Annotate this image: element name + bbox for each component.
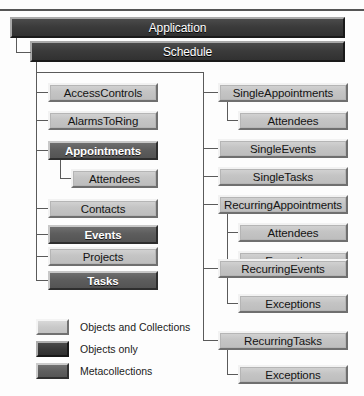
branch-right-singleevents bbox=[203, 148, 219, 149]
node-singleappointments-label: SingleAppointments bbox=[233, 87, 334, 99]
banner-application[interactable]: Application bbox=[10, 17, 345, 38]
trunk-right-vertical bbox=[203, 72, 204, 340]
legend-row-objects-only: Objects only bbox=[36, 338, 190, 360]
node-recurringevents[interactable]: RecurringEvents bbox=[218, 259, 348, 278]
legend-swatch-objects-and-collections bbox=[36, 319, 69, 335]
node-singleevents-label: SingleEvents bbox=[250, 143, 316, 155]
node-events-label: Events bbox=[84, 229, 121, 241]
node-recurringevents-exceptions[interactable]: Exceptions bbox=[238, 294, 348, 313]
node-projects-label: Projects bbox=[83, 251, 124, 263]
legend: Objects and Collections Objects only Met… bbox=[36, 316, 190, 382]
legend-label-objects-and-collections: Objects and Collections bbox=[80, 321, 190, 333]
node-singleappointments[interactable]: SingleAppointments bbox=[218, 83, 348, 102]
node-recurringtasks-exceptions-label: Exceptions bbox=[265, 369, 320, 381]
node-recurringevents-label: RecurringEvents bbox=[241, 263, 325, 275]
node-contacts[interactable]: Contacts bbox=[48, 199, 158, 218]
legend-row-objects-and-collections: Objects and Collections bbox=[36, 316, 190, 338]
node-singletasks[interactable]: SingleTasks bbox=[218, 167, 348, 186]
node-events[interactable]: Events bbox=[48, 225, 158, 244]
node-appointments-attendees[interactable]: Attendees bbox=[71, 169, 158, 188]
top-divider-rule bbox=[0, 9, 364, 11]
node-recurringappointments-label: RecurringAppointments bbox=[224, 199, 342, 211]
branch-right-singletasks bbox=[203, 176, 219, 177]
node-recurringappointments-attendees[interactable]: Attendees bbox=[238, 223, 348, 242]
node-recurringtasks[interactable]: RecurringTasks bbox=[218, 331, 348, 350]
banner-schedule[interactable]: Schedule bbox=[30, 41, 345, 62]
node-alarmstoring-label: AlarmsToRing bbox=[68, 115, 138, 127]
node-appointments[interactable]: Appointments bbox=[48, 141, 158, 160]
connector-schedule-split bbox=[36, 72, 204, 73]
legend-swatch-objects-only bbox=[36, 341, 69, 357]
node-recurringevents-exceptions-label: Exceptions bbox=[265, 298, 320, 310]
branch-right-recurringappointments bbox=[203, 204, 219, 205]
legend-row-metacollections: Metacollections bbox=[36, 360, 190, 382]
connector-application-to-schedule-horizontal bbox=[16, 52, 31, 53]
trunk-left-vertical bbox=[36, 72, 37, 280]
branch-right-singleappointments bbox=[203, 92, 219, 93]
node-tasks-label: Tasks bbox=[87, 275, 118, 287]
subbranch-recurringappointments-stem bbox=[227, 214, 228, 261]
node-projects[interactable]: Projects bbox=[48, 247, 158, 266]
node-accesscontrols[interactable]: AccessControls bbox=[48, 83, 158, 102]
connector-application-to-schedule-vertical bbox=[16, 38, 17, 52]
node-singleevents[interactable]: SingleEvents bbox=[218, 139, 348, 158]
class-hierarchy-diagram: Application Schedule AccessControls Alar… bbox=[0, 0, 364, 396]
subbranch-recurringtasks-stem bbox=[227, 350, 228, 375]
node-singleappointments-attendees-label: Attendees bbox=[268, 115, 319, 127]
branch-right-recurringevents bbox=[203, 268, 219, 269]
legend-label-metacollections: Metacollections bbox=[80, 365, 152, 377]
node-alarmstoring[interactable]: AlarmsToRing bbox=[48, 111, 158, 130]
node-contacts-label: Contacts bbox=[81, 203, 126, 215]
subbranch-left-appointments-stem bbox=[60, 160, 61, 179]
node-recurringappointments[interactable]: RecurringAppointments bbox=[218, 195, 348, 214]
node-recurringtasks-exceptions[interactable]: Exceptions bbox=[238, 365, 348, 384]
legend-swatch-metacollections bbox=[36, 363, 69, 379]
banner-schedule-label: Schedule bbox=[163, 45, 212, 59]
node-singletasks-label: SingleTasks bbox=[253, 171, 313, 183]
node-recurringappointments-attendees-label: Attendees bbox=[268, 227, 319, 239]
node-tasks[interactable]: Tasks bbox=[48, 271, 158, 290]
node-singleappointments-attendees[interactable]: Attendees bbox=[238, 111, 348, 130]
node-appointments-attendees-label: Attendees bbox=[89, 173, 140, 185]
branch-right-recurringtasks bbox=[203, 340, 219, 341]
subbranch-recurringevents-stem bbox=[227, 278, 228, 304]
legend-label-objects-only: Objects only bbox=[80, 343, 138, 355]
node-appointments-label: Appointments bbox=[65, 145, 141, 157]
node-recurringtasks-label: RecurringTasks bbox=[244, 335, 322, 347]
subbranch-singleappointments-stem bbox=[227, 102, 228, 121]
node-accesscontrols-label: AccessControls bbox=[64, 87, 143, 99]
banner-application-label: Application bbox=[149, 21, 207, 35]
